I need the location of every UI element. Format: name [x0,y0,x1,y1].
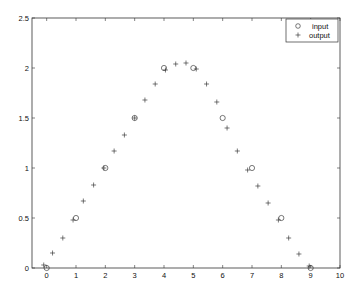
y-tick-label: 0 [25,264,29,273]
plot-area [32,18,340,268]
y-tick-label: 1.5 [19,114,29,123]
x-tick-label: 8 [279,271,283,280]
y-tick-label: 2 [25,64,29,73]
legend-output-label: output [309,31,331,40]
y-tick-label: 0.5 [19,214,29,223]
x-tick-label: 1 [74,271,78,280]
x-tick-label: 0 [45,271,49,280]
x-tick-label: 5 [191,271,195,280]
y-tick-label: 2.5 [19,14,29,23]
legend: input output [286,19,338,42]
legend-input-label: input [312,22,329,31]
scatter-chart: 01234567891000.511.522.5 input output [0,0,359,293]
x-tick-label: 2 [103,271,107,280]
x-tick-label: 10 [336,271,344,280]
x-tick-label: 9 [309,271,313,280]
x-tick-label: 3 [133,271,137,280]
y-tick-label: 1 [25,164,29,173]
x-tick-label: 4 [162,271,166,280]
x-tick-label: 7 [250,271,254,280]
x-tick-label: 6 [221,271,225,280]
